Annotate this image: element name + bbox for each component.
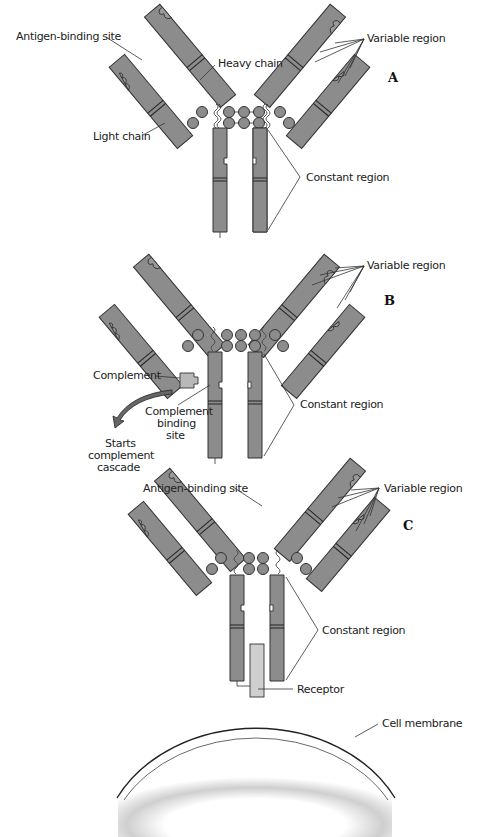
label-variable-region: Variable region [367,32,446,45]
antibody-diagram: Antigen-binding site Heavy chain Light c… [0,0,479,837]
complement-protein [180,373,198,388]
label-receptor: Receptor [297,683,345,696]
label-cell-membrane: Cell membrane [382,717,463,730]
label-antigen-binding-site: Antigen-binding site [16,30,121,43]
panel-a: Antigen-binding site Heavy chain Light c… [16,4,446,238]
label-heavy-chain: Heavy chain [218,57,283,70]
panel-c: Antigen-binding site Variable region C C… [117,458,463,837]
label-light-chain: Light chain [93,130,151,143]
label-complement-binding-site-3: site [166,429,185,442]
label-variable-region-b: Variable region [367,259,446,272]
fc-stem-left [213,128,227,238]
cell-interior [118,757,392,837]
label-constant-region-b: Constant region [300,398,384,411]
fc-stem-right [253,128,267,232]
fc-stem-left-c [230,575,250,686]
fc-stem-right-b [248,352,262,458]
label-constant-region: Constant region [306,171,390,184]
label-complement: Complement [93,369,162,382]
label-variable-region-c: Variable region [384,482,463,495]
label-cascade-3: cascade [97,461,140,474]
label-constant-region-c: Constant region [322,624,406,637]
panel-label-a: A [387,70,399,85]
panel-b: Variable region B Constant region Comple… [88,254,446,474]
panel-label-b: B [384,293,395,308]
label-antigen-binding-site-c: Antigen-binding site [143,482,248,495]
heavy-chain-left-arm [144,4,235,107]
panel-label-c: C [403,518,413,533]
domain-beads [188,107,295,129]
fc-stem-right-c [270,575,284,681]
